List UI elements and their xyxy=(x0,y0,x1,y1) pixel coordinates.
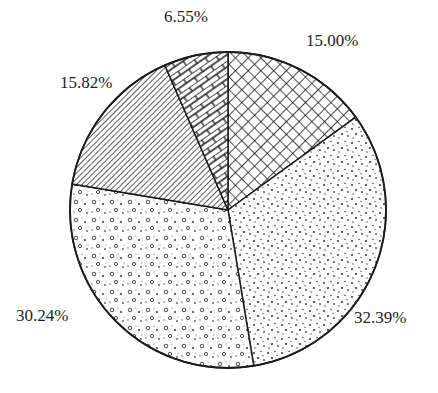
pie-slice-circles-dots xyxy=(70,184,254,368)
slice-label-15-82: 15.82% xyxy=(60,73,112,93)
slice-label-15-00: 15.00% xyxy=(306,31,358,51)
slice-label-32-39: 32.39% xyxy=(354,308,406,328)
slice-label-6-55: 6.55% xyxy=(164,7,208,27)
pie-chart xyxy=(0,0,438,393)
slice-label-30-24: 30.24% xyxy=(16,306,68,326)
pie-slices xyxy=(70,52,386,368)
